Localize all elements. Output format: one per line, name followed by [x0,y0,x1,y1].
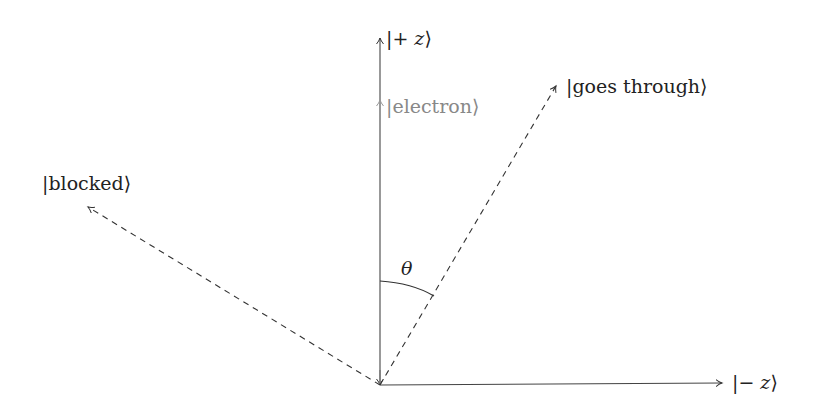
blocked-label: |blocked⟩ [42,174,131,193]
diagram-canvas [0,0,831,413]
plus-z-ket: + z [392,27,424,49]
angle-arc [380,281,434,296]
theta-label: θ [401,259,412,278]
blocked-vector [88,207,380,385]
goes-through-vector [380,86,556,385]
minus-z-axis [380,383,722,385]
goes-through-label: |goes through⟩ [566,77,707,96]
electron-label: |electron⟩ [386,97,479,116]
plus-z-label: |+ z⟩ [386,29,432,48]
minus-z-ket: − z [738,371,770,393]
minus-z-label: |− z⟩ [732,373,778,392]
